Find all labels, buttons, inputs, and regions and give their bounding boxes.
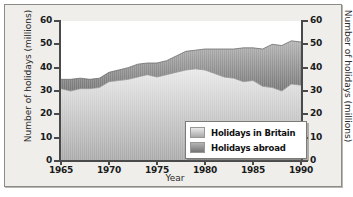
y-tick-right-50 [303,43,308,45]
y-label-right-50: 50 [310,38,332,48]
y-tick-right-30 [303,90,308,92]
y-label-right-60: 60 [310,15,332,25]
y-label-right-20: 20 [310,108,332,118]
x-label-1990: 1990 [284,165,318,175]
x-label-1970: 1970 [92,165,126,175]
y-label-left-40: 40 [30,62,52,72]
y-label-left-30: 30 [30,85,52,95]
y-axis-left [59,20,61,162]
legend-label-britain: Holidays in Britain [211,128,295,138]
y-label-left-20: 20 [30,108,52,118]
y-tick-right-0 [303,160,308,162]
y-tick-right-20 [303,113,308,115]
y-axis-left-title: Number of holidays (millions) [23,1,33,151]
y-tick-left-40 [54,67,59,69]
y-label-left-10: 10 [30,132,52,142]
y-label-right-40: 40 [310,62,332,72]
y-tick-left-10 [54,137,59,139]
y-label-left-60: 60 [30,15,52,25]
y-label-left-0: 0 [30,155,52,165]
chart-legend: Holidays in Britain Holidays abroad [185,121,307,159]
y-tick-left-0 [54,160,59,162]
x-label-1985: 1985 [236,165,270,175]
y-tick-right-60 [303,20,308,22]
x-axis [59,160,303,162]
y-tick-left-60 [54,20,59,22]
legend-swatch-britain [190,127,205,138]
x-axis-title: Year [125,173,225,183]
legend-item-abroad: Holidays abroad [190,140,302,155]
y-label-right-0: 0 [310,155,332,165]
y-label-left-50: 50 [30,38,52,48]
y-tick-left-20 [54,113,59,115]
y-label-right-30: 30 [310,85,332,95]
y-tick-left-30 [54,90,59,92]
y-tick-right-40 [303,67,308,69]
y-tick-left-50 [54,43,59,45]
y-label-right-10: 10 [310,132,332,142]
legend-swatch-abroad [190,142,205,153]
legend-label-abroad: Holidays abroad [211,143,286,153]
x-label-1965: 1965 [44,165,78,175]
y-axis-right-title: Number of holidays (millions) [343,1,353,151]
chart-frame: 0102030405060 0102030405060 196519701975… [4,4,342,187]
legend-item-britain: Holidays in Britain [190,125,302,140]
